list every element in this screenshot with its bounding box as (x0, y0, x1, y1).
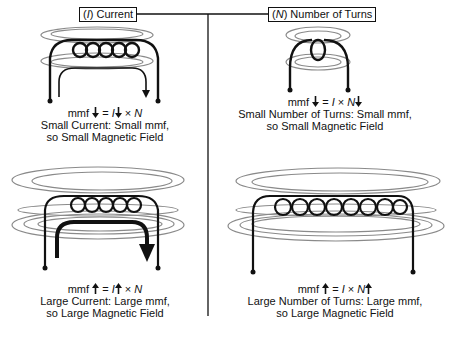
eq-equals: = (102, 107, 108, 119)
terminal (48, 99, 53, 104)
caption-line-1: Large Current: Large mmf, (20, 295, 190, 307)
arrow-down-icon (115, 107, 122, 118)
terminal (156, 99, 161, 104)
caption-line-2: so Small Magnetic Field (20, 131, 190, 143)
terminal (251, 270, 256, 275)
arrow-up-icon (365, 283, 372, 294)
equation: mmf = I × N (235, 283, 435, 295)
arrow-down-icon (92, 107, 99, 118)
eq-mmf: mmf (68, 283, 89, 295)
eq-times: × (348, 283, 354, 295)
current-arrowhead (142, 90, 150, 98)
coil-large-turns (228, 168, 444, 275)
current-arrow (57, 222, 147, 258)
arrow-down-icon (355, 96, 362, 107)
current-arrowhead (139, 244, 155, 262)
arrow-up-icon (92, 283, 99, 294)
eq-N: N (134, 107, 142, 119)
current-label-text: Current (96, 8, 133, 20)
arrow-up-icon (322, 283, 329, 294)
eq-equals: = (322, 96, 328, 108)
current-label-box: (I) Current (79, 7, 137, 22)
coil-small-current (41, 27, 161, 104)
caption-small-turns: mmf = I × N Small Number of Turns: Small… (225, 96, 425, 132)
turns-label-box: (N) Number of Turns (268, 7, 376, 22)
caption-line-1: Small Number of Turns: Small mmf, (225, 108, 425, 120)
terminal (43, 266, 48, 271)
caption-line-1: Large Number of Turns: Large mmf, (235, 295, 435, 307)
eq-N: N (134, 283, 142, 295)
terminal (346, 88, 351, 93)
arrow-down-icon (312, 96, 319, 107)
caption-line-2: so Large Magnetic Field (235, 307, 435, 319)
turns-variable: N (276, 8, 284, 20)
caption-small-current: mmf = I × N Small Current: Small mmf, so… (20, 107, 190, 143)
caption-large-turns: mmf = I × N Large Number of Turns: Large… (235, 283, 435, 319)
eq-N: N (347, 96, 355, 108)
current-arrow (59, 68, 146, 97)
equation: mmf = I × N (225, 96, 425, 108)
eq-mmf: mmf (298, 283, 319, 295)
equation: mmf = I × N (20, 283, 190, 295)
coil-large-current (12, 167, 184, 271)
eq-times: × (125, 107, 131, 119)
terminal (411, 270, 416, 275)
eq-N: N (357, 283, 365, 295)
eq-times: × (125, 283, 131, 295)
eq-I: I (332, 96, 335, 108)
terminal (288, 88, 293, 93)
caption-large-current: mmf = I × N Large Current: Large mmf, so… (20, 283, 190, 319)
coil-small-turns (286, 27, 351, 93)
eq-mmf: mmf (68, 107, 89, 119)
eq-mmf: mmf (288, 96, 309, 108)
eq-times: × (338, 96, 344, 108)
caption-line-2: so Large Magnetic Field (20, 307, 190, 319)
field-lines (41, 27, 153, 69)
eq-equals: = (332, 283, 338, 295)
eq-I: I (342, 283, 345, 295)
turns-label-text: Number of Turns (290, 8, 372, 20)
terminal (156, 266, 161, 271)
eq-equals: = (102, 283, 108, 295)
caption-line-2: so Small Magnetic Field (225, 120, 425, 132)
current-variable: I (87, 8, 90, 20)
arrow-up-icon (115, 283, 122, 294)
caption-line-1: Small Current: Small mmf, (20, 119, 190, 131)
equation: mmf = I × N (20, 107, 190, 119)
